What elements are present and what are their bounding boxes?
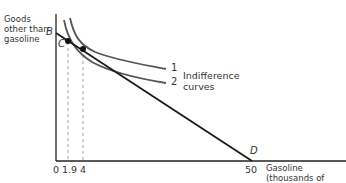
indifference-curve-2	[64, 20, 166, 83]
x-axis-label: Gasoline (thousands of gallons per year)	[266, 163, 346, 183]
point-c-label: C	[58, 39, 65, 49]
point-c	[65, 38, 71, 44]
x-tick-4: 4	[80, 164, 86, 175]
x-tick-50: 50	[245, 164, 257, 175]
x-tick-0: 0	[53, 164, 59, 175]
point-4	[80, 46, 86, 52]
point-d-label: D	[250, 146, 258, 156]
curve-1-label: 1	[171, 63, 177, 73]
point-b-label: B	[46, 27, 53, 37]
indifference-curve-1	[70, 18, 166, 69]
budget-line	[56, 33, 252, 161]
indifference-curves-label: Indifference curves	[183, 70, 243, 92]
curve-2-label: 2	[171, 77, 177, 87]
x-tick-1-9: 1.9	[62, 164, 77, 175]
